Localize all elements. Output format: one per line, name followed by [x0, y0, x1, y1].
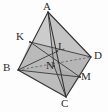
label-n: N: [46, 60, 54, 71]
geometry-figure: A K L D B N M C: [0, 0, 108, 112]
label-b: B: [3, 62, 10, 73]
label-m: M: [81, 71, 91, 82]
label-a: A: [43, 1, 51, 12]
label-d: D: [94, 50, 102, 61]
label-k: K: [16, 31, 24, 42]
label-c: C: [61, 98, 68, 109]
vertex-dot-k: [29, 41, 31, 43]
label-l: L: [58, 41, 65, 52]
tetrahedron-drawing: [0, 0, 108, 112]
